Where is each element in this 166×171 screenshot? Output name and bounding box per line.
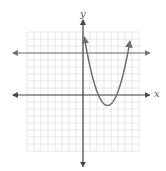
graph: [0, 0, 166, 171]
y-axis-label: y: [80, 9, 86, 19]
axes: [13, 20, 150, 166]
x-axis-label: x: [154, 89, 160, 99]
